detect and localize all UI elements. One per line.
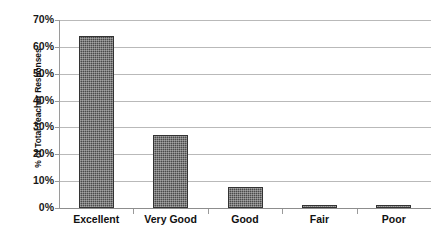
y-axis-tick-mark xyxy=(55,74,60,75)
y-axis-tick-label: 20% xyxy=(6,147,54,159)
y-axis-tick-mark xyxy=(55,127,60,128)
gridline xyxy=(59,74,431,75)
plot-area xyxy=(59,20,431,208)
gridline xyxy=(59,101,431,102)
x-axis-baseline xyxy=(59,208,431,209)
bar xyxy=(228,187,263,208)
x-axis-category-label: Good xyxy=(208,213,282,225)
y-axis-tick-mark xyxy=(55,154,60,155)
y-axis-tick-label: 0% xyxy=(6,201,54,213)
y-axis-tick-label: 50% xyxy=(6,67,54,79)
y-axis-tick-mark xyxy=(55,181,60,182)
y-axis-tick-mark xyxy=(55,101,60,102)
y-axis-tick-label: 60% xyxy=(6,40,54,52)
bar xyxy=(302,205,337,208)
x-axis-category-label: Fair xyxy=(282,213,356,225)
bar xyxy=(376,205,411,208)
x-axis-category-label: Very Good xyxy=(133,213,207,225)
chart-title xyxy=(0,0,431,8)
x-axis-category-label: Excellent xyxy=(59,213,133,225)
y-axis-tick-labels: 70%60%50%40%30%20%10%0% xyxy=(0,0,54,236)
gridline xyxy=(59,181,431,182)
bar-chart-figure: % of Total Teacher Responses 70%60%50%40… xyxy=(0,0,431,236)
y-axis-tick-label: 30% xyxy=(6,120,54,132)
gridline xyxy=(59,20,431,21)
y-axis-tick-mark xyxy=(55,20,60,21)
y-axis-tick-label: 10% xyxy=(6,174,54,186)
y-axis-tick-label: 40% xyxy=(6,94,54,106)
x-axis-category-label: Poor xyxy=(357,213,431,225)
y-axis-tick-label: 70% xyxy=(6,13,54,25)
bar xyxy=(153,135,188,208)
gridline xyxy=(59,154,431,155)
gridline xyxy=(59,47,431,48)
y-axis-tick-mark xyxy=(55,47,60,48)
bar xyxy=(79,36,114,208)
gridline xyxy=(59,127,431,128)
y-axis-tick-mark xyxy=(55,208,60,209)
